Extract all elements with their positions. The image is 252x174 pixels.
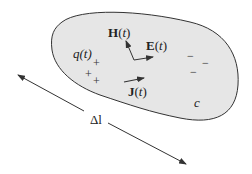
minus-sign: − [190, 65, 197, 79]
dimension-arrow-2 [108, 123, 186, 164]
plus-sign: + [85, 67, 92, 81]
h-field-label: H(t) [108, 25, 130, 40]
region-label: c [194, 95, 200, 110]
minus-sign: − [187, 49, 194, 63]
conductor-region [51, 12, 238, 120]
j-current-label: J(t) [128, 84, 147, 99]
plus-sign: + [93, 74, 100, 88]
minus-sign: − [202, 56, 209, 70]
dimension-label: Δl [90, 112, 102, 127]
diagram-svg: H(t) E(t) J(t) q(t) c Δl + + + − − − [0, 0, 252, 174]
diagram-canvas: H(t) E(t) J(t) q(t) c Δl + + + − − − [0, 0, 252, 174]
e-field-label: E(t) [146, 38, 167, 53]
charge-label: q(t) [73, 46, 92, 61]
plus-sign: + [93, 56, 100, 70]
